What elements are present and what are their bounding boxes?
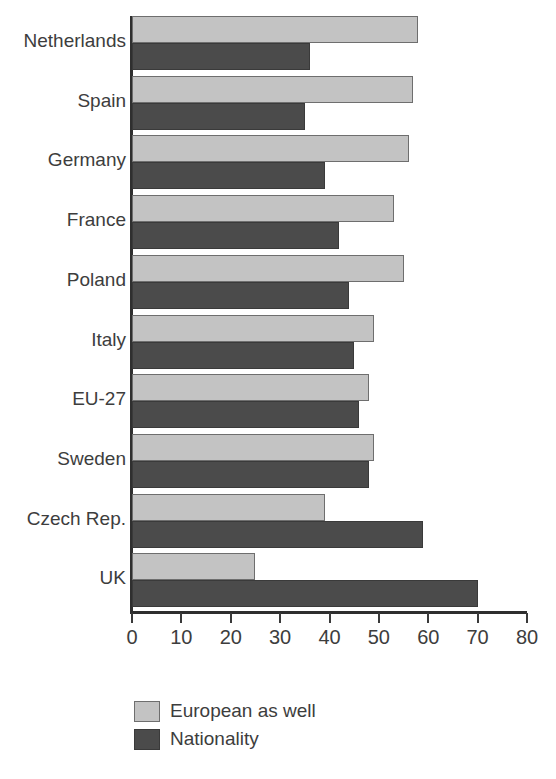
bar-nationality (132, 401, 359, 428)
bar-nationality (132, 580, 478, 607)
x-tick-label: 60 (408, 626, 448, 649)
bar-european-as-well (132, 195, 394, 222)
x-tick-label: 50 (359, 626, 399, 649)
legend-swatch-icon (134, 729, 160, 750)
bar-group (132, 553, 527, 607)
plot-area (132, 16, 527, 613)
x-tick-label: 80 (507, 626, 547, 649)
category-label: Poland (0, 269, 126, 291)
bar-european-as-well (132, 553, 255, 580)
bar-nationality (132, 342, 354, 369)
legend-item: Nationality (134, 725, 316, 753)
bar-nationality (132, 521, 423, 548)
x-tick-mark (279, 613, 281, 623)
bar-european-as-well (132, 135, 409, 162)
x-tick-mark (477, 613, 479, 623)
legend-label: Nationality (170, 728, 259, 750)
bar-nationality (132, 43, 310, 70)
bar-group (132, 195, 527, 249)
bar-european-as-well (132, 494, 325, 521)
legend-swatch-icon (134, 701, 160, 722)
x-tick-label: 10 (161, 626, 201, 649)
bar-european-as-well (132, 315, 374, 342)
category-label: Sweden (0, 448, 126, 470)
legend: European as wellNationality (134, 697, 316, 753)
x-tick-mark (427, 613, 429, 623)
bar-group (132, 255, 527, 309)
legend-label: European as well (170, 700, 316, 722)
x-tick-mark (329, 613, 331, 623)
category-label: Italy (0, 329, 126, 351)
category-label: UK (0, 567, 126, 589)
x-tick-label: 70 (458, 626, 498, 649)
category-label: France (0, 209, 126, 231)
x-tick-label: 30 (260, 626, 300, 649)
bar-nationality (132, 282, 349, 309)
bar-european-as-well (132, 434, 374, 461)
legend-item: European as well (134, 697, 316, 725)
category-label: Czech Rep. (0, 508, 126, 530)
bar-group (132, 315, 527, 369)
x-tick-label: 20 (211, 626, 251, 649)
x-tick-label: 0 (112, 626, 152, 649)
x-tick-mark (230, 613, 232, 623)
bar-group (132, 76, 527, 130)
bar-european-as-well (132, 374, 369, 401)
x-tick-mark (131, 613, 133, 623)
bar-european-as-well (132, 255, 404, 282)
bar-group (132, 494, 527, 548)
bar-group (132, 135, 527, 189)
bar-nationality (132, 162, 325, 189)
category-label: EU-27 (0, 388, 126, 410)
bar-nationality (132, 461, 369, 488)
category-label: Spain (0, 90, 126, 112)
bar-nationality (132, 103, 305, 130)
bar-group (132, 434, 527, 488)
x-tick-mark (378, 613, 380, 623)
x-tick-mark (180, 613, 182, 623)
bar-chart: NetherlandsSpainGermanyFrancePolandItaly… (0, 0, 556, 779)
bar-european-as-well (132, 16, 418, 43)
category-label: Germany (0, 149, 126, 171)
bar-group (132, 374, 527, 428)
x-tick-mark (526, 613, 528, 623)
bar-nationality (132, 222, 339, 249)
bar-european-as-well (132, 76, 413, 103)
x-tick-label: 40 (310, 626, 350, 649)
bar-group (132, 16, 527, 70)
category-label: Netherlands (0, 30, 126, 52)
